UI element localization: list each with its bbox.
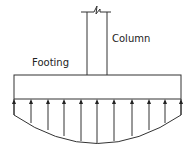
column-label: Column bbox=[112, 34, 150, 44]
footing-label: Footing bbox=[32, 58, 69, 68]
diagram-drawing bbox=[0, 0, 192, 157]
footing bbox=[14, 75, 181, 99]
column bbox=[81, 6, 111, 75]
footing-pressure-diagram: Column Footing bbox=[0, 0, 192, 157]
arrow-heads bbox=[12, 99, 183, 104]
pressure-arrows bbox=[14, 101, 181, 143]
